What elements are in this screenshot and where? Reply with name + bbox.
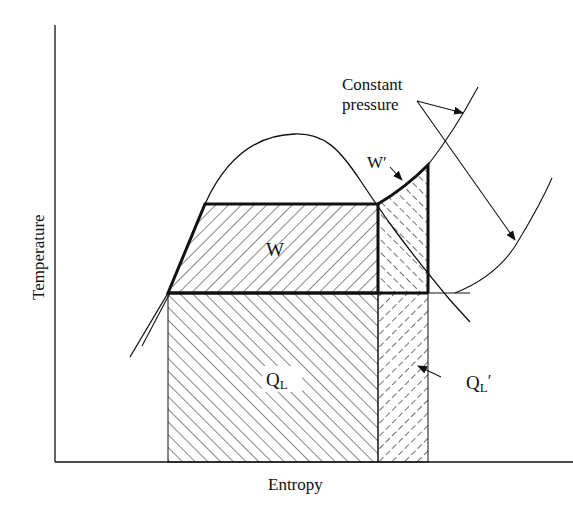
heat-low-prime-area	[378, 293, 428, 462]
work-prime-label: W′	[367, 153, 387, 172]
constant-pressure-low	[455, 178, 552, 293]
constant-pressure-arrow-2	[417, 101, 515, 240]
ts-diagram: Constant pressure W W′ QL QL′ Entropy Te…	[0, 0, 573, 521]
work-label: W	[266, 239, 284, 260]
constant-pressure-high	[428, 87, 478, 165]
constant-pressure-label-2: pressure	[342, 95, 399, 114]
work-prime-arrow	[390, 167, 402, 180]
heat-low-prime-label: QL′	[466, 371, 491, 395]
work-prime-area	[378, 165, 428, 293]
constant-pressure-label-1: Constant	[342, 75, 403, 94]
y-axis-label: Temperature	[29, 214, 48, 300]
liquid-line	[142, 293, 170, 346]
x-axis-label: Entropy	[268, 475, 323, 494]
